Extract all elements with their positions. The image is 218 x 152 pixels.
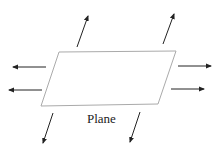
arrow-down-right: [130, 112, 140, 142]
arrow-down-left: [43, 113, 53, 143]
arrow-up-right: [163, 14, 174, 44]
plane-parallelogram: [41, 51, 176, 106]
plane-diagram: [0, 0, 218, 152]
arrow-up-left: [77, 16, 88, 47]
plane-label: Plane: [87, 111, 116, 127]
